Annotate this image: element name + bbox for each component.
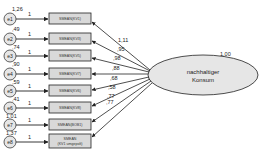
loading-value: 1,11	[118, 37, 128, 43]
error-variance: ,74	[12, 44, 20, 50]
error-label: e7	[7, 122, 13, 128]
error-variance: 1,26	[12, 6, 23, 12]
latent-label-1: nachhaltiger	[187, 69, 220, 75]
error-label: e6	[7, 105, 13, 111]
error-label: e2	[7, 36, 13, 42]
error-variance: 1,01	[6, 113, 17, 119]
error-variance: 1,37	[6, 130, 17, 136]
error-variance: ,59	[12, 79, 20, 85]
path-weight: 1	[28, 83, 31, 89]
loading-value: ,98	[113, 55, 121, 61]
observed-variable-label: SMEAN(KV5)	[59, 54, 81, 58]
latent-ellipse	[148, 55, 258, 95]
observed-variable-label: SMEAN(KV8)	[59, 106, 81, 110]
observed-variable-label: SMEAN(KV6)	[59, 89, 81, 93]
latent-variance: 1,00	[220, 51, 231, 57]
observed-variable-label: SMEAN	[64, 137, 77, 141]
error-label: e5	[7, 88, 13, 94]
path-weight: 1	[28, 100, 31, 106]
error-variance: ,49	[12, 26, 20, 32]
path-weight: 1	[28, 66, 31, 72]
loading-value: ,77	[106, 99, 114, 105]
path-weight: 1	[28, 49, 31, 55]
path-weight: 1	[28, 134, 31, 140]
path-weight: 1	[28, 117, 31, 123]
indicator-row-4: e4 ,90 1 SMEAN(KV7) ,88	[4, 61, 148, 80]
observed-variable-label: SMEAN(KV7)	[59, 72, 81, 76]
loading-value: ,88	[112, 65, 120, 71]
observed-variable-label: SMEAN(BOB1)	[58, 123, 83, 127]
observed-variable-label: SMEAN(KV3)	[59, 37, 81, 41]
error-label: e4	[7, 71, 13, 77]
indicator-row-2: e2 ,49 1 SMEAN(KV3) ,95	[4, 26, 150, 71]
error-variance: ,41	[12, 96, 20, 102]
error-label: e8	[7, 139, 13, 145]
error-variance: ,90	[12, 61, 20, 67]
latent-label-2: Konsum	[192, 77, 214, 83]
error-label: e3	[7, 53, 13, 59]
error-label: e1	[7, 16, 13, 22]
path-weight: 1	[28, 31, 31, 37]
loading-value: ,58	[108, 84, 116, 90]
loading-value: ,68	[110, 75, 118, 81]
path-diagram: nachhaltiger Konsum 1,00 e1 1,26 1 SMEAN…	[0, 0, 262, 156]
observed-variable-label-2: (KV1 umgepolt)	[58, 142, 83, 146]
observed-variable-label: SMEAN(KV1)	[59, 17, 81, 21]
path-weight: 1	[28, 11, 31, 17]
loading-value: ,95	[117, 46, 125, 52]
